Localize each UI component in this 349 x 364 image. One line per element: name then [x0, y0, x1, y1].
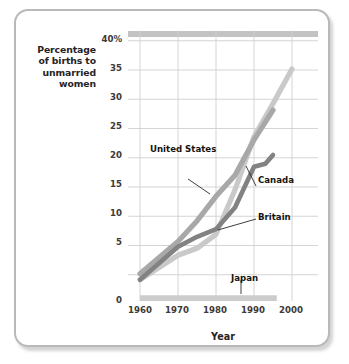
y-tick-label-0: 0 [88, 295, 122, 305]
line-chart: Percentage of births to unmarried women … [0, 0, 349, 364]
series-label-japan: Japan [231, 273, 258, 283]
y-tick-label-20: 20 [88, 150, 122, 160]
series-label-britain: Britain [258, 212, 291, 222]
y-tick-label-5: 5 [88, 237, 122, 247]
y-axis-title-line-3: unmarried [24, 67, 96, 78]
plot-area [128, 31, 318, 301]
y-axis-title-line-1: Percentage [24, 44, 96, 55]
x-tick-label-2000: 2000 [271, 305, 311, 315]
plot-top-band [128, 31, 318, 37]
y-tick-label-15: 15 [88, 179, 122, 189]
y-axis-title: Percentage of births to unmarried women [24, 44, 96, 90]
series-label-united-states: United States [150, 144, 216, 154]
y-tick-label-35: 35 [88, 63, 122, 73]
y-tick-label-25: 25 [88, 121, 122, 131]
x-tick-label-1960: 1960 [120, 305, 160, 315]
y-tick-label-40: 40% [88, 34, 122, 44]
series-label-canada: Canada [258, 175, 294, 185]
y-axis-title-line-4: women [24, 78, 96, 89]
x-axis-title: Year [128, 331, 318, 342]
y-tick-label-10: 10 [88, 208, 122, 218]
y-axis-title-line-2: of births to [24, 55, 96, 66]
x-tick-label-1970: 1970 [157, 305, 197, 315]
x-tick-label-1990: 1990 [233, 305, 273, 315]
x-tick-label-1980: 1980 [195, 305, 235, 315]
y-tick-label-30: 30 [88, 92, 122, 102]
